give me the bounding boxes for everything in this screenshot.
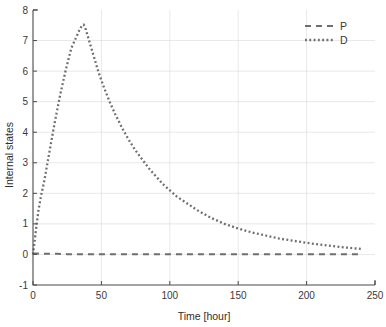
x-tick-label: 50 (96, 290, 108, 301)
y-tick-label: 5 (22, 96, 28, 107)
y-tick-label: 7 (22, 35, 28, 46)
y-tick-label: 6 (22, 66, 28, 77)
chart-plot-area: 050100150200250 -1012345678 Time [hour] … (0, 0, 386, 327)
chart-figure: 050100150200250 -1012345678 Time [hour] … (0, 0, 386, 327)
y-tick-label: 0 (22, 249, 28, 260)
legend-label-p: P (340, 20, 347, 32)
figure-background (0, 0, 386, 327)
y-tick-label: 8 (22, 5, 28, 16)
y-tick-label: -1 (19, 280, 28, 291)
legend-label-d: D (340, 34, 348, 46)
y-tick-label: 4 (22, 127, 28, 138)
x-tick-label: 200 (298, 290, 315, 301)
x-tick-label: 100 (161, 290, 178, 301)
x-tick-label: 0 (30, 290, 36, 301)
x-axis-title: Time [hour] (178, 310, 231, 322)
x-tick-label: 250 (367, 290, 384, 301)
y-tick-label: 1 (22, 218, 28, 229)
x-tick-label: 150 (230, 290, 247, 301)
y-tick-label: 3 (22, 157, 28, 168)
y-axis-title: Internal states (3, 122, 15, 188)
y-tick-label: 2 (22, 188, 28, 199)
